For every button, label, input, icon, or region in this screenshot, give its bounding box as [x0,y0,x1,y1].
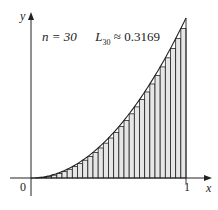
riemann-rect [83,160,88,178]
riemann-rect [57,174,62,178]
riemann-sum-figure: y x 0 1 n = 30 L30 ≈ 0.3169 [0,0,218,210]
annotation: n = 30 L30 ≈ 0.3169 [42,29,160,47]
riemann-rect [93,152,98,178]
x-tick-one-label: 1 [184,180,190,195]
riemann-rect [103,143,108,178]
riemann-rect [150,84,155,178]
riemann-rect [129,114,134,178]
riemann-rect [98,148,103,178]
riemann-rect [145,92,150,178]
riemann-rect [67,169,72,178]
riemann-rect [72,167,77,178]
riemann-rect [62,172,67,178]
riemann-rect [160,67,165,178]
origin-label: 0 [20,180,26,195]
riemann-rect [119,127,124,178]
y-axis-label: y [20,9,25,24]
L-symbol: L [95,29,102,44]
x-axis-label: x [206,181,211,196]
riemann-rect [171,48,176,178]
riemann-rect [165,58,170,178]
riemann-rect [124,120,129,178]
y-axis-arrow-icon [28,12,34,20]
riemann-rect [155,76,160,178]
riemann-rect [114,132,119,178]
riemann-rect [109,138,114,178]
L-subscript: 30 [103,38,111,47]
riemann-rect [134,107,139,178]
riemann-rect [176,39,181,178]
L-value: ≈ 0.3169 [114,29,160,44]
riemann-rect [78,164,83,178]
riemann-rect [88,156,93,178]
riemann-rect [140,100,145,178]
riemann-rect [181,28,186,178]
n-label: n = 30 [42,29,77,44]
